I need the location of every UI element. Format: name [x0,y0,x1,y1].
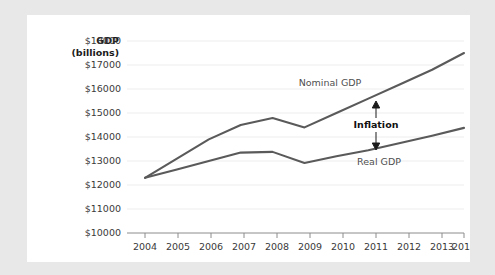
x-tick-label-2013: 2013 [430,241,454,252]
x-tick-label-2004: 2004 [133,241,157,252]
series-line-nominal-gdp [145,53,464,178]
gdp-line-chart: GDP (billions) $18000 $17000 $16000 $150… [27,15,470,262]
y-tick-label-18000: $18000 [85,35,121,46]
y-tick-label-11000: $11000 [85,203,121,214]
y-axis-title-line2: (billions) [72,47,119,58]
x-tick-label-2010: 2010 [331,241,355,252]
x-tick-marks [145,233,464,238]
y-tick-label-12000: $12000 [85,179,121,190]
y-tick-label-17000: $17000 [85,59,121,70]
x-tick-label-2007: 2007 [232,241,256,252]
x-tick-label-2014: 2014 [452,241,470,252]
chart-page: GDP (billions) $18000 $17000 $16000 $150… [0,0,495,275]
series-line-real-gdp [145,128,464,178]
y-tick-label-16000: $16000 [85,83,121,94]
x-tick-label-2009: 2009 [298,241,322,252]
x-tick-label-2012: 2012 [397,241,421,252]
y-tick-label-13000: $13000 [85,155,121,166]
chart-card: GDP (billions) $18000 $17000 $16000 $150… [27,15,470,262]
x-tick-label-2011: 2011 [364,241,388,252]
inflation-label: Inflation [354,119,399,130]
real-gdp-label: Real GDP [357,156,401,167]
nominal-gdp-label: Nominal GDP [299,77,362,88]
y-tick-label-10000: $10000 [85,227,121,238]
x-tick-label-2008: 2008 [265,241,289,252]
x-tick-label-2005: 2005 [166,241,190,252]
y-tick-label-15000: $15000 [85,107,121,118]
y-tick-label-14000: $14000 [85,131,121,142]
x-tick-label-2006: 2006 [199,241,223,252]
